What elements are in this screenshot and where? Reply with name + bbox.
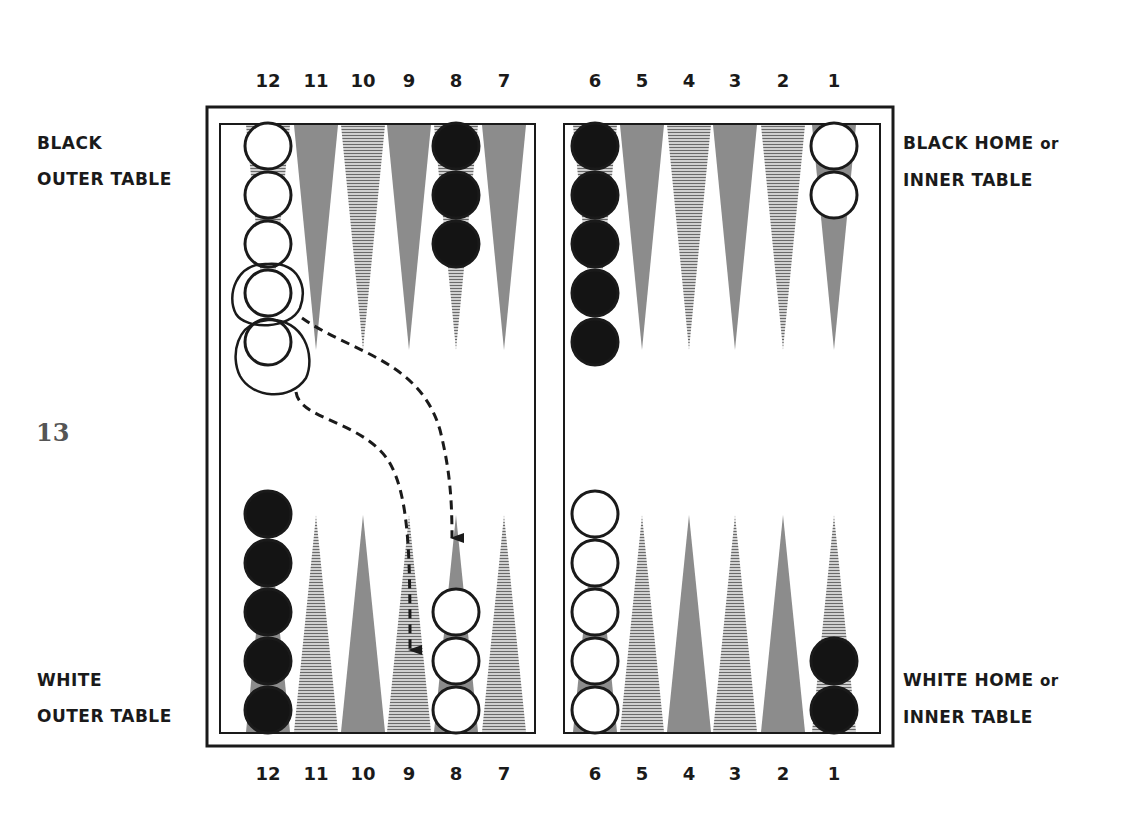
black-checker[interactable] [245, 687, 291, 733]
white-checker[interactable] [811, 172, 857, 218]
black-checker[interactable] [433, 123, 479, 169]
white-checker[interactable] [433, 589, 479, 635]
black-checker[interactable] [572, 270, 618, 316]
black-checker[interactable] [811, 638, 857, 684]
black-checker[interactable] [245, 638, 291, 684]
black-checker[interactable] [433, 172, 479, 218]
white-checker[interactable] [572, 638, 618, 684]
backgammon-board [0, 0, 1137, 818]
black-checker[interactable] [811, 687, 857, 733]
black-checker[interactable] [572, 221, 618, 267]
white-checker[interactable] [572, 687, 618, 733]
black-checker[interactable] [245, 589, 291, 635]
black-checker[interactable] [572, 123, 618, 169]
white-checker[interactable] [572, 540, 618, 586]
black-checker[interactable] [433, 221, 479, 267]
white-checker[interactable] [572, 589, 618, 635]
black-checker[interactable] [572, 319, 618, 365]
white-checker[interactable] [572, 491, 618, 537]
black-checker[interactable] [245, 540, 291, 586]
white-checker[interactable] [433, 687, 479, 733]
white-checker[interactable] [245, 221, 291, 267]
white-checker[interactable] [433, 638, 479, 684]
black-checker[interactable] [245, 491, 291, 537]
black-checker[interactable] [572, 172, 618, 218]
white-checker[interactable] [811, 123, 857, 169]
white-checker[interactable] [245, 123, 291, 169]
white-checker[interactable] [245, 172, 291, 218]
white-checker[interactable] [245, 270, 291, 316]
